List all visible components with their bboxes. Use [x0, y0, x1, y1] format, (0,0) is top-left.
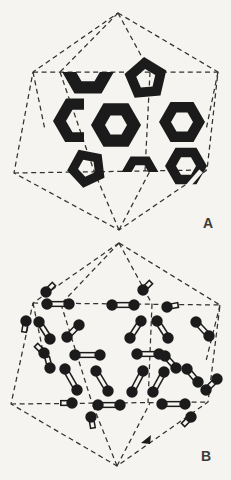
panel-b: [11, 243, 223, 466]
panel-a-label: A: [203, 215, 213, 231]
hexagon-ring-molecule: [61, 47, 115, 94]
figure-canvas: [0, 0, 231, 480]
panel-a: [14, 13, 218, 230]
hexagon-ring-molecule: [165, 148, 207, 184]
hexagon-ring-molecule: [121, 157, 159, 190]
crystal-structure-figure: A B: [0, 0, 231, 480]
hexagon-ring-molecule: [159, 102, 205, 142]
hexagon-ring-molecule: [91, 103, 141, 146]
panel-b-label: B: [201, 448, 211, 464]
pentagon-ring-molecule: [125, 57, 167, 98]
edge-arrow-mark: [141, 435, 151, 444]
